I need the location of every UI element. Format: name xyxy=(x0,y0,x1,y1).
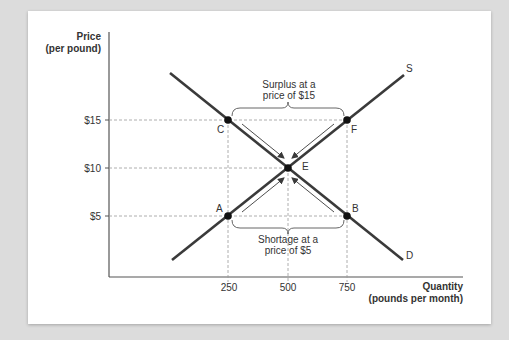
y-axis-title: Price xyxy=(77,31,102,42)
shortage-brace xyxy=(232,220,344,234)
label-s: S xyxy=(406,63,413,74)
guide-lines xyxy=(109,120,347,282)
label-e: E xyxy=(302,161,309,172)
x-tick-250: 250 xyxy=(221,282,238,293)
point-a xyxy=(224,212,232,220)
x-tick-750: 750 xyxy=(339,282,356,293)
surplus-text-2: price of $15 xyxy=(263,90,316,101)
shortage-text-2: price of $5 xyxy=(265,245,312,256)
point-b xyxy=(343,212,351,220)
point-e xyxy=(284,164,292,172)
surplus-text-1: Surplus at a xyxy=(262,79,316,90)
surplus-brace xyxy=(232,102,344,116)
y-tick-15: $15 xyxy=(84,115,101,126)
y-tick-10: $10 xyxy=(84,163,101,174)
x-axis-title: Quantity xyxy=(422,281,463,292)
y-axis-subtitle: (per pound) xyxy=(45,43,101,54)
point-c xyxy=(224,116,232,124)
label-b: B xyxy=(352,203,359,214)
y-tick-5: $5 xyxy=(90,211,102,222)
label-d: D xyxy=(406,250,413,261)
point-f xyxy=(343,116,351,124)
x-axis-subtitle: (pounds per month) xyxy=(369,293,463,304)
label-c: C xyxy=(217,124,224,135)
label-f: F xyxy=(351,124,357,135)
x-tick-500: 500 xyxy=(280,282,297,293)
label-a: A xyxy=(216,203,223,214)
shortage-text-1: Shortage at a xyxy=(258,234,318,245)
supply-demand-chart: C F E A B S D $15 $10 $5 250 500 750 Pri… xyxy=(0,0,509,340)
